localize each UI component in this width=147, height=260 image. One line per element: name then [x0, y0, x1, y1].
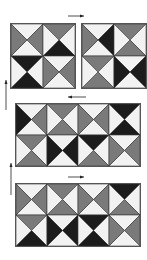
arrow-up-left-1-icon: [5, 80, 8, 110]
arrow-up-left-2-icon: [10, 163, 13, 195]
arrow-left-middle-icon: [68, 96, 86, 99]
arrows-layer: [0, 0, 147, 260]
arrow-right-top-icon: [68, 15, 84, 18]
arrow-right-bottom-icon: [68, 176, 84, 179]
